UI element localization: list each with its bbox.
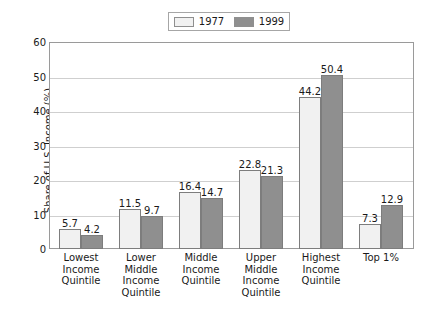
category-label-middle-income-quintile: Middle Income Quintile <box>169 252 233 287</box>
category-line: Quintile <box>109 287 173 299</box>
category-line: Quintile <box>229 287 293 299</box>
category-label-highest-income-quintile: Highest Income Quintile <box>289 252 353 287</box>
category-line: Income <box>169 264 233 276</box>
bar-group-lower-middle-income-quintile: 11.5 9.7 <box>116 42 166 249</box>
category-line: Income <box>49 264 113 276</box>
bar-value-1977-upper-middle: 22.8 <box>239 159 261 170</box>
bar-group-highest-income-quintile: 44.2 50.4 <box>296 42 346 249</box>
category-label-top-1-percent: Top 1% <box>349 252 413 264</box>
category-line: Income <box>109 275 173 287</box>
y-tick-0: 0 <box>16 244 46 255</box>
x-axis-categories: Lowest Income Quintile Lower Middle Inco… <box>49 252 414 310</box>
legend-label-1977: 1977 <box>199 17 224 27</box>
category-line: Lower <box>109 252 173 264</box>
bar-value-1999-lowest: 4.2 <box>84 224 100 235</box>
legend-swatch-1999 <box>234 17 254 27</box>
y-tick-40: 40 <box>16 106 46 117</box>
y-tick-50: 50 <box>16 71 46 82</box>
category-line: Quintile <box>49 275 113 287</box>
bar-1999-lower-middle[interactable]: 9.7 <box>141 216 163 250</box>
bars-layer: 5.7 4.2 11.5 9.7 16.4 14.7 22.8 <box>49 42 414 249</box>
y-tick-30: 30 <box>16 140 46 151</box>
category-line: Income <box>229 275 293 287</box>
figure-caption <box>60 306 390 315</box>
category-label-lower-middle-income-quintile: Lower Middle Income Quintile <box>109 252 173 298</box>
legend-item-1999: 1999 <box>234 17 284 27</box>
bar-1999-top1[interactable]: 12.9 <box>381 205 403 250</box>
category-line: Middle <box>109 264 173 276</box>
bar-value-1999-top1: 12.9 <box>381 194 403 205</box>
bar-group-top-1-percent: 7.3 12.9 <box>356 42 406 249</box>
category-label-upper-middle-income-quintile: Upper Middle Income Quintile <box>229 252 293 298</box>
bar-value-1977-highest: 44.2 <box>299 86 321 97</box>
y-tick-10: 10 <box>16 209 46 220</box>
category-line: Top 1% <box>349 252 413 264</box>
bar-1977-lowest[interactable]: 5.7 <box>59 229 81 249</box>
category-line: Income <box>289 264 353 276</box>
category-line: Lowest <box>49 252 113 264</box>
category-line: Highest <box>289 252 353 264</box>
category-line: Quintile <box>289 275 353 287</box>
bar-value-1977-lowest: 5.7 <box>62 218 78 229</box>
bar-value-1977-lower-middle: 11.5 <box>119 198 141 209</box>
bar-1999-highest[interactable]: 50.4 <box>321 75 343 249</box>
bar-1977-middle[interactable]: 16.4 <box>179 192 201 249</box>
bar-1977-top1[interactable]: 7.3 <box>359 224 381 249</box>
category-line: Upper <box>229 252 293 264</box>
y-tick-60: 60 <box>16 37 46 48</box>
category-line: Middle <box>229 264 293 276</box>
legend-swatch-1977 <box>174 17 194 27</box>
bar-value-1999-upper-middle: 21.3 <box>261 165 283 176</box>
bar-value-1999-middle: 14.7 <box>201 187 223 198</box>
legend-item-1977: 1977 <box>174 17 224 27</box>
category-line: Quintile <box>169 275 233 287</box>
bar-1999-lowest[interactable]: 4.2 <box>81 235 103 250</box>
bar-value-1977-top1: 7.3 <box>362 213 378 224</box>
chart-legend: 1977 1999 <box>168 12 290 31</box>
bar-1999-upper-middle[interactable]: 21.3 <box>261 176 283 250</box>
bar-chart: 1977 1999 Share of U.S. Income (%) 60 50… <box>0 0 432 315</box>
bar-group-middle-income-quintile: 16.4 14.7 <box>176 42 226 249</box>
bar-1977-highest[interactable]: 44.2 <box>299 97 321 250</box>
legend-label-1999: 1999 <box>259 17 284 27</box>
bar-value-1999-highest: 50.4 <box>321 64 343 75</box>
category-line: Middle <box>169 252 233 264</box>
bar-value-1977-middle: 16.4 <box>179 181 201 192</box>
bar-1977-lower-middle[interactable]: 11.5 <box>119 209 141 249</box>
bar-1977-upper-middle[interactable]: 22.8 <box>239 170 261 249</box>
bar-group-lowest-income-quintile: 5.7 4.2 <box>56 42 106 249</box>
bar-1999-middle[interactable]: 14.7 <box>201 198 223 249</box>
bar-value-1999-lower-middle: 9.7 <box>144 205 160 216</box>
category-label-lowest-income-quintile: Lowest Income Quintile <box>49 252 113 287</box>
bar-group-upper-middle-income-quintile: 22.8 21.3 <box>236 42 286 249</box>
y-tick-20: 20 <box>16 175 46 186</box>
